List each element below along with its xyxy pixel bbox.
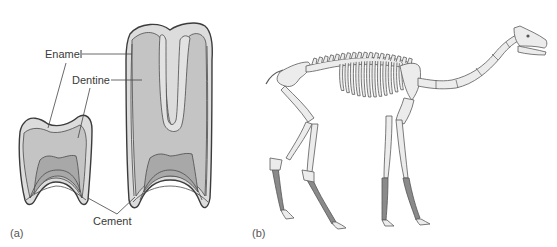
- rib: [340, 64, 344, 91]
- skeleton-neck: [418, 34, 520, 89]
- skeleton-hind-hoof-far: [281, 210, 294, 219]
- skeleton-pelvis: [277, 62, 310, 87]
- skeleton-hind-tibia-near: [307, 124, 318, 172]
- skeleton-fore-radius-far: [384, 116, 392, 178]
- skeleton-eye-orbit: [526, 34, 529, 37]
- vertebral-spine: [357, 52, 362, 58]
- vertebral-spine: [323, 56, 328, 62]
- rib: [383, 61, 387, 95]
- high-crowned-tooth: [126, 23, 212, 208]
- vertebral-spine: [368, 52, 373, 58]
- skeleton-hind-femur: [281, 86, 314, 122]
- skeleton-hind-hock-far: [270, 158, 282, 170]
- skeleton: [266, 26, 547, 229]
- panel-label-b: (b): [252, 227, 265, 239]
- vertebral-spine: [379, 53, 384, 59]
- skeleton-hind-hoof-near: [332, 222, 346, 229]
- skeleton-fore-hoof-far: [382, 220, 394, 226]
- vertebral-spine: [346, 53, 351, 59]
- vertebral-spine: [329, 55, 334, 61]
- panel-label-a: (a): [10, 227, 23, 239]
- vertebral-spine: [351, 52, 356, 58]
- vertebral-spine: [385, 54, 390, 60]
- rib: [350, 63, 354, 95]
- figure: Enamel Dentine Cement (a): [0, 0, 557, 247]
- rib: [377, 61, 381, 96]
- panel-b: (b): [252, 26, 547, 239]
- rib: [394, 63, 398, 92]
- vertebral-spine: [390, 55, 395, 61]
- skeleton-hind-hock-near: [302, 170, 314, 182]
- skeleton-skull: [514, 26, 547, 48]
- label-dentine: Dentine: [72, 74, 110, 86]
- skeleton-fore-cannon-far: [382, 178, 388, 220]
- vertebral-spine: [396, 56, 401, 62]
- vertebral-spine: [318, 57, 323, 63]
- vertebral-spine: [374, 53, 379, 59]
- rib: [356, 62, 360, 96]
- vertebral-spine: [312, 58, 317, 64]
- vertebral-spine: [402, 57, 407, 63]
- skeleton-hind-cannon-near: [307, 180, 336, 224]
- vertebral-spine: [340, 53, 345, 59]
- skeleton-scapula: [400, 63, 421, 100]
- vertebral-spine: [362, 52, 367, 58]
- skeleton-fore-radius-near: [396, 120, 408, 178]
- rib: [388, 62, 392, 94]
- skeleton-fore-cannon-near: [403, 178, 420, 220]
- rib: [367, 61, 371, 97]
- leader-cement-small: [88, 198, 117, 214]
- rib: [361, 61, 365, 96]
- rib: [372, 61, 376, 97]
- panel-a: Enamel Dentine Cement (a): [10, 23, 212, 239]
- skeleton-fore-hoof-near: [416, 219, 430, 225]
- leader-enamel-small: [48, 63, 66, 128]
- skeleton-hind-cannon-far: [272, 167, 284, 211]
- vertebral-spine: [334, 54, 339, 60]
- low-crowned-tooth: [19, 115, 92, 204]
- rib: [345, 63, 349, 92]
- label-cement: Cement: [93, 215, 132, 227]
- label-enamel: Enamel: [45, 48, 82, 60]
- skeleton-hind-tibia-far: [286, 122, 312, 160]
